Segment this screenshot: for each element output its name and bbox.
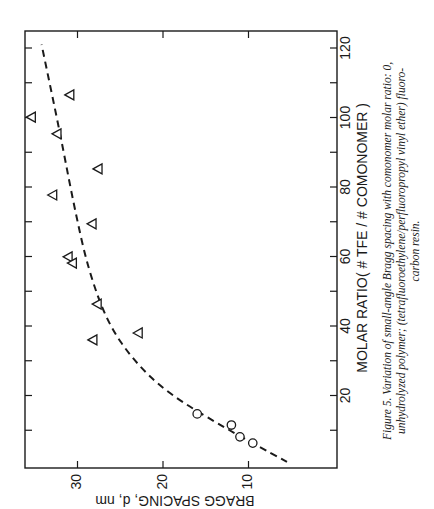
x-tick-label: 60 bbox=[337, 249, 353, 265]
x-tick-label: 100 bbox=[337, 106, 353, 130]
caption-line-3: carbon resin. bbox=[408, 31, 422, 471]
triangle-marker bbox=[133, 328, 142, 338]
triangle-marker bbox=[26, 112, 35, 122]
x-tick-label: 40 bbox=[337, 318, 353, 334]
triangle-marker bbox=[48, 190, 57, 200]
x-tick-label: 20 bbox=[337, 388, 353, 404]
triangle-marker bbox=[87, 219, 96, 229]
circle-marker bbox=[249, 439, 257, 447]
y-tick-label: 10 bbox=[239, 474, 255, 490]
circle-marker bbox=[227, 421, 235, 429]
figure-caption: Figure 5. Variation of small-angle Bragg… bbox=[380, 31, 422, 471]
y-tick-label: 30 bbox=[68, 474, 84, 490]
triangle-marker bbox=[88, 335, 97, 345]
circle-marker bbox=[236, 433, 244, 441]
triangle-marker bbox=[63, 252, 72, 262]
triangle-marker bbox=[52, 129, 61, 139]
chart-plot: 20406080100120102030 MOLAR RATIO ( # TFE… bbox=[0, 0, 434, 509]
circle-marker bbox=[193, 410, 201, 418]
figure-caption-area: Figure 5. Variation of small-angle Bragg… bbox=[371, 40, 431, 480]
x-tick-label: 120 bbox=[337, 36, 353, 60]
fit-curve-dashed bbox=[42, 45, 287, 462]
x-tick-label: 80 bbox=[337, 179, 353, 195]
y-axis-label: BRAGG SPACING, d, nm bbox=[95, 493, 254, 509]
x-axis-label: MOLAR RATIO bbox=[354, 277, 370, 373]
caption-line-1: Figure 5. Variation of small-angle Bragg… bbox=[380, 31, 394, 471]
axis-tick-labels: 20406080100120102030 bbox=[68, 36, 353, 489]
x-axis-label-paren: ( # TFE / # COMONOMER ) bbox=[354, 103, 370, 277]
triangle-marker bbox=[92, 299, 101, 309]
triangle-marker bbox=[93, 164, 102, 174]
fluorocarbon-resin-points bbox=[26, 90, 142, 345]
caption-line-2: unhydrolyzed polymer; (tetrafluoroethyle… bbox=[394, 31, 408, 471]
y-tick-label: 20 bbox=[154, 474, 170, 490]
figure: 20406080100120102030 MOLAR RATIO ( # TFE… bbox=[0, 0, 434, 509]
triangle-marker bbox=[65, 90, 74, 100]
